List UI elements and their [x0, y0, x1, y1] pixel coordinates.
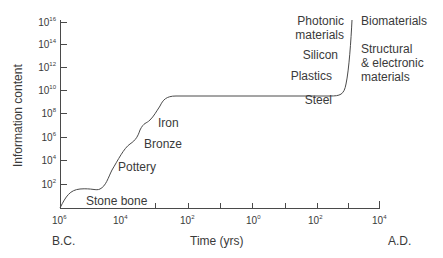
era-pottery: Pottery [118, 160, 156, 174]
y-axis-label: Information content [11, 67, 25, 167]
era-bronze: Bronze [144, 137, 182, 151]
y-tick-8: 108 [26, 107, 56, 119]
x-tick-1e2-ad: 102 [308, 214, 322, 226]
era-plastics: Plastics [270, 69, 332, 83]
y-tick-12: 1012 [26, 61, 56, 73]
ad-label: A.D. [388, 234, 411, 248]
y-tick-2: 102 [26, 178, 56, 190]
era-silicon: Silicon [270, 48, 338, 62]
y-tick-10: 1010 [26, 84, 56, 96]
x-tick-1e0: 100 [246, 214, 260, 226]
x-tick-1e2-bc: 102 [180, 214, 194, 226]
structural-label-3: materials [361, 70, 410, 84]
x-tick-1e4-ad: 104 [372, 214, 386, 226]
bc-label: B.C. [52, 234, 75, 248]
era-stone-bone: Stone bone [86, 194, 147, 208]
y-tick-14: 1014 [26, 38, 56, 50]
era-photonic-1: Photonic [280, 14, 344, 28]
y-tick-6: 106 [26, 131, 56, 143]
y-tick-16: 1016 [26, 16, 56, 28]
era-steel: Steel [290, 93, 332, 107]
y-tick-4: 104 [26, 154, 56, 166]
x-axis-label: Time (yrs) [190, 234, 244, 248]
era-iron: Iron [158, 116, 179, 130]
x-tick-1e4-bc: 104 [113, 214, 127, 226]
structural-label-2: & electronic [361, 56, 424, 70]
x-tick-1e6-bc: 106 [52, 214, 66, 226]
biomaterials-label: Biomaterials [361, 14, 427, 28]
era-photonic-2: materials [280, 28, 344, 42]
structural-label-1: Structural [361, 42, 412, 56]
